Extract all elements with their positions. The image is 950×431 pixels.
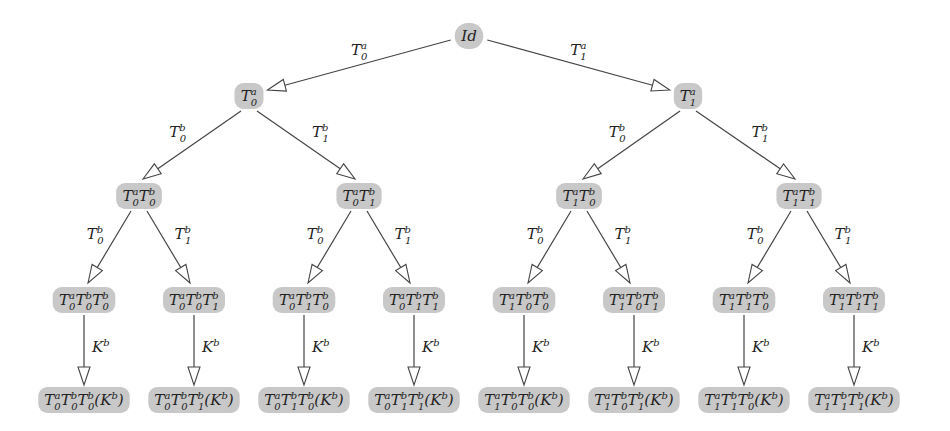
edge-label: Ta1​: [570, 40, 586, 62]
arrowhead-icon: [528, 264, 542, 283]
svg-text:Ta0​: Ta0​: [351, 40, 368, 62]
edge-a0b1-a0b1b1: Tb1​: [367, 211, 411, 283]
arrowhead-icon: [78, 367, 90, 385]
svg-text:Tb1​: Tb1​: [175, 224, 192, 246]
edge-a0b1b0-k3: Kb​: [298, 315, 330, 385]
arrowhead-icon: [836, 264, 850, 283]
edge-a1-a1b1: Tb1​: [696, 111, 795, 179]
tree-node-a1: Ta1​: [674, 83, 702, 109]
arrowhead-icon: [518, 367, 530, 385]
arrowhead-icon: [628, 367, 640, 385]
node-label: Ta0​: [241, 86, 258, 108]
svg-text:Kb​: Kb​: [201, 337, 220, 356]
node-label: Ta1​: [680, 86, 696, 108]
edge-label: Tb0​: [87, 224, 104, 246]
edge-a0b0-a0b0b0: Tb0​: [87, 211, 131, 283]
tree-node-k2: Ta0​Tb0​Tb1​(Kb​): [148, 387, 239, 413]
svg-text:Tb1​: Tb1​: [615, 224, 632, 246]
edge-label: Tb0​: [307, 224, 324, 246]
node-label: Ta0​Tb1​: [342, 186, 375, 208]
tree-node-a0b0b0: Ta0​Tb0​Tb0​: [53, 287, 116, 313]
tree-node-a1b0b1: Ta1​Tb0​Tb1​: [603, 287, 665, 313]
tree-node-a0b1b1: Ta0​Tb1​Tb1​: [383, 287, 445, 313]
svg-text:Tb1​: Tb1​: [752, 122, 769, 144]
arrowhead-icon: [738, 367, 750, 385]
arrowhead-icon: [267, 79, 286, 91]
arrowhead-icon: [777, 164, 795, 179]
node-label: Id: [460, 27, 477, 45]
arrowhead-icon: [408, 367, 420, 385]
arrowhead-icon: [748, 264, 762, 283]
svg-text:Tb0​: Tb0​: [747, 224, 764, 246]
edge-label: Tb1​: [395, 224, 412, 246]
edge-label: Tb1​: [752, 122, 769, 144]
edge-label: Kb​: [861, 337, 880, 356]
edges-layer: Ta0​Ta1​Tb0​Tb1​Tb0​Tb1​Tb0​Tb1​Tb0​Tb1​…: [78, 40, 880, 385]
edge-label: Tb1​: [175, 224, 192, 246]
tree-node-k4: Ta0​Tb1​Tb1​(Kb​): [368, 387, 459, 413]
svg-text:Tb0​: Tb0​: [307, 224, 324, 246]
svg-text:Kb​: Kb​: [421, 337, 440, 356]
tree-node-a1b1b1: Ta1​Tb1​Tb1​: [823, 287, 885, 313]
tree-node-k3: Ta0​Tb1​Tb0​(Kb​): [258, 387, 349, 413]
edge-label: Tb0​: [527, 224, 544, 246]
edge-a1b1b1-k8: Kb​: [848, 315, 880, 385]
tree-node-root: Id: [455, 23, 484, 49]
arrowhead-icon: [396, 264, 410, 283]
arrowhead-icon: [176, 264, 190, 283]
edge-label: Tb0​: [609, 122, 626, 144]
edge-a1-a1b0: Tb0​: [583, 111, 680, 179]
edge-a1b1-a1b1b0: Tb0​: [747, 211, 791, 283]
node-label: Ta1​Tb0​: [562, 186, 596, 208]
arrowhead-icon: [616, 264, 630, 283]
tree-node-a1b1: Ta1​Tb1​: [776, 183, 821, 209]
edge-label: Tb0​: [747, 224, 764, 246]
svg-text:Tb1​: Tb1​: [835, 224, 852, 246]
svg-text:Tb0​: Tb0​: [527, 224, 544, 246]
node-label: Ta0​Tb1​Tb0​: [279, 290, 330, 312]
tree-node-a0b0: Ta0​Tb0​: [116, 183, 162, 209]
tree-node-k6: Ta1​Tb0​Tb1​(Kb​): [588, 387, 679, 413]
node-label: Ta1​Tb1​Tb1​: [829, 290, 879, 312]
svg-text:Kb​: Kb​: [311, 337, 330, 356]
arrowhead-icon: [337, 164, 355, 179]
edge-a1b0-a1b0b0: Tb0​: [527, 211, 571, 283]
node-label: Ta1​Tb0​Tb1​: [609, 290, 659, 312]
tree-node-k8: Ta1​Tb1​Tb1​(Kb​): [808, 387, 899, 413]
tree-node-k1: Ta0​Tb0​Tb0​(Kb​): [38, 387, 129, 413]
node-label: Ta0​Tb0​: [122, 186, 156, 208]
edge-root-a1: Ta1​: [487, 40, 670, 91]
arrowhead-icon: [848, 367, 860, 385]
tree-node-a1b0b0: Ta1​Tb0​Tb0​: [493, 287, 556, 313]
node-label: Ta1​Tb1​: [782, 186, 815, 208]
edge-label: Kb​: [201, 337, 220, 356]
node-label: Ta1​Tb0​Tb0​: [499, 290, 550, 312]
node-label: Ta0​Tb0​Tb1​: [169, 290, 219, 312]
nodes-layer: IdTa0​Ta1​Ta0​Tb0​Ta0​Tb1​Ta1​Tb0​Ta1​Tb…: [38, 23, 899, 413]
arrowhead-icon: [88, 264, 102, 283]
tree-node-a0b1b0: Ta0​Tb1​Tb0​: [273, 287, 336, 313]
edge-label: Kb​: [311, 337, 330, 356]
tree-node-a0: Ta0​: [235, 83, 264, 109]
edge-label: Tb0​: [169, 122, 186, 144]
svg-text:Tb1​: Tb1​: [395, 224, 412, 246]
edge-label: Kb​: [641, 337, 660, 356]
edge-label: Kb​: [751, 337, 770, 356]
node-label: Ta0​Tb1​Tb1​: [389, 290, 439, 312]
edge-a1b0-a1b0b1: Tb1​: [587, 211, 631, 283]
tree-node-a1b1b0: Ta1​Tb1​Tb0​: [713, 287, 776, 313]
tree-node-k7: Ta1​Tb1​Tb0​(Kb​): [698, 387, 789, 413]
tree-node-a0b1: Ta0​Tb1​: [336, 183, 381, 209]
edge-a1b0b1-k6: Kb​: [628, 315, 660, 385]
edge-label: Kb​: [421, 337, 440, 356]
edge-label: Tb1​: [615, 224, 632, 246]
svg-text:Kb​: Kb​: [751, 337, 770, 356]
edge-a0-a0b1: Tb1​: [257, 111, 355, 179]
arrowhead-icon: [298, 367, 310, 385]
node-label: Ta0​Tb0​Tb0​: [59, 290, 110, 312]
tree-diagram: Ta0​Ta1​Tb0​Tb1​Tb0​Tb1​Tb0​Tb1​Tb0​Tb1​…: [0, 0, 950, 431]
edge-a1b0b0-k5: Kb​: [518, 315, 550, 385]
edge-a0b0b0-k1: Kb​: [78, 315, 110, 385]
edge-a0b0-a0b0b1: Tb1​: [147, 211, 191, 283]
tree-node-a0b0b1: Ta0​Tb0​Tb1​: [163, 287, 225, 313]
